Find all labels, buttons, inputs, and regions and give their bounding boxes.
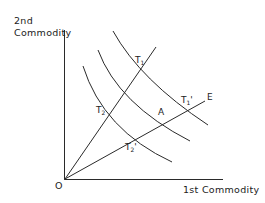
label-T1: T1 (135, 56, 144, 66)
trade-diagram: 2nd Commodity 1st Commodity O T1 T2 T1' … (0, 0, 265, 203)
T2p-prime: ' (134, 142, 136, 152)
label-T1-prime: T1' (181, 96, 193, 106)
T1p-prime: ' (190, 95, 192, 105)
y-axis-label-line2: Commodity (14, 28, 71, 38)
T1-sub: 1 (141, 59, 145, 66)
label-E: E (207, 93, 213, 102)
T2-sub: 2 (102, 109, 106, 116)
y-axis-label-line1: 2nd (14, 16, 33, 26)
label-T2-prime: T2' (125, 143, 137, 153)
origin-point (64, 178, 66, 180)
steep-ray (65, 47, 156, 179)
origin-label: O (55, 181, 63, 191)
label-T2: T2 (96, 106, 105, 116)
x-axis-label: 1st Commodity (183, 185, 259, 195)
label-A: A (158, 108, 164, 117)
